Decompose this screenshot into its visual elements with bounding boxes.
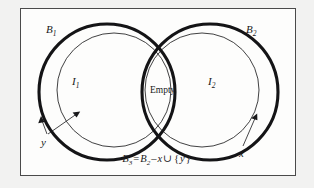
equation-b3: B3=B2–x∪{y} <box>0 154 314 167</box>
label-y: y <box>41 137 46 148</box>
figure-page: B1 B2 I1 I2 Empty y x B3=B2–x∪{y} <box>0 0 314 188</box>
label-i2: I2 <box>208 76 215 90</box>
label-b1: B1 <box>46 24 56 38</box>
label-i1: I1 <box>72 76 79 90</box>
label-b2: B2 <box>246 24 256 38</box>
label-empty-region: Empty <box>150 86 175 96</box>
